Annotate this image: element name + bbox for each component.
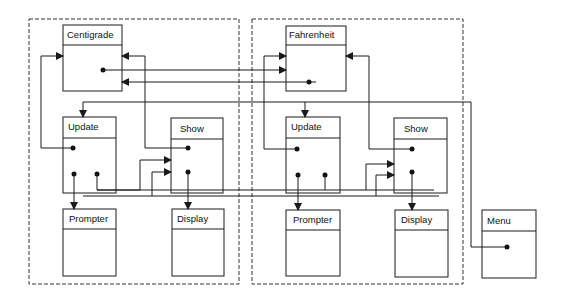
object-menu[interactable]: Menu bbox=[482, 210, 536, 278]
object-prompter-right[interactable]: Prompter bbox=[286, 210, 340, 276]
object-centigrade[interactable]: Centigrade bbox=[63, 25, 122, 91]
object-title: Centigrade bbox=[67, 29, 113, 40]
object-update-left[interactable]: Update bbox=[63, 117, 116, 193]
object-title: Display bbox=[177, 213, 208, 224]
diagram-canvas: Centigrade Update Show Prompter Display … bbox=[0, 0, 565, 303]
object-title: Menu bbox=[487, 215, 511, 226]
object-title: Prompter bbox=[293, 214, 332, 225]
object-title: Fahrenheit bbox=[289, 29, 335, 40]
object-title: Update bbox=[68, 121, 99, 132]
object-show-right[interactable]: Show bbox=[394, 118, 447, 193]
object-title: Prompter bbox=[69, 213, 108, 224]
object-update-right[interactable]: Update bbox=[286, 117, 340, 193]
object-display-right[interactable]: Display bbox=[395, 210, 448, 277]
object-title: Display bbox=[401, 214, 432, 225]
object-show-left[interactable]: Show bbox=[171, 118, 223, 193]
object-display-left[interactable]: Display bbox=[172, 209, 224, 276]
object-title: Update bbox=[291, 121, 322, 132]
object-fahrenheit[interactable]: Fahrenheit bbox=[286, 26, 346, 91]
object-title: Show bbox=[180, 123, 204, 134]
object-title: Show bbox=[404, 123, 428, 134]
object-prompter-left[interactable]: Prompter bbox=[63, 209, 116, 276]
